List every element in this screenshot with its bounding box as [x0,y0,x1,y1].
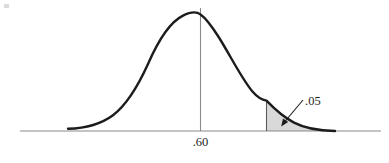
scan-artifact-speck [4,4,9,8]
callout-arrow-line [285,100,304,122]
mean-axis-label: .60 [193,135,209,149]
bell-curve-path [68,13,335,131]
normal-distribution-figure: .05 .60 [0,0,389,163]
tail-area-label: .05 [305,94,321,108]
